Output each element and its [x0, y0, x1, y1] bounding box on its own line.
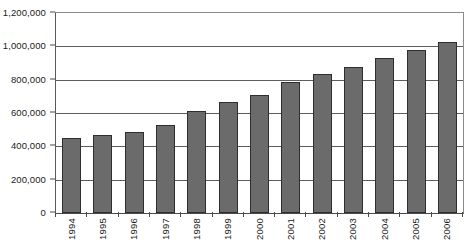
- x-tick-label: 2006: [441, 218, 452, 240]
- y-tick-label: 600,000: [11, 107, 46, 118]
- plot-area: [55, 12, 464, 214]
- bar: [156, 125, 175, 213]
- x-tick-label: 1996: [128, 218, 139, 240]
- x-tick-label: 2002: [316, 218, 327, 240]
- x-tick-label: 1994: [66, 218, 77, 240]
- bars-layer: [56, 13, 463, 213]
- x-tick-label: 1995: [97, 218, 108, 240]
- bar: [250, 95, 269, 213]
- bar: [187, 111, 206, 213]
- x-tick-label: 2003: [347, 218, 358, 240]
- bar: [219, 102, 238, 213]
- y-tick-label: 200,000: [11, 173, 46, 184]
- bar: [375, 58, 394, 213]
- y-tick-label: 400,000: [11, 140, 46, 151]
- y-tick-label: 800,000: [11, 73, 46, 84]
- y-tick-label: 0: [41, 207, 46, 218]
- bar: [344, 67, 363, 213]
- x-tick-label: 1997: [160, 218, 171, 240]
- bar: [125, 132, 144, 213]
- bar: [62, 138, 81, 213]
- x-tick-label: 2004: [379, 218, 390, 240]
- bar: [93, 135, 112, 213]
- bar: [313, 74, 332, 213]
- y-tick-label: 1,200,000: [3, 7, 46, 18]
- y-tick-label: 1,000,000: [3, 40, 46, 51]
- bar-chart: 0200,000400,000600,000800,0001,000,0001,…: [0, 0, 474, 251]
- x-axis-labels: 1994199519961997199819992000200120022003…: [55, 216, 462, 251]
- bar: [438, 42, 457, 213]
- x-tick-label: 2000: [254, 218, 265, 240]
- bar: [281, 82, 300, 213]
- x-tick-label: 2001: [285, 218, 296, 240]
- x-tick-mark: [462, 212, 463, 217]
- x-tick-label: 1998: [191, 218, 202, 240]
- x-tick-label: 1999: [222, 218, 233, 240]
- x-tick-label: 2005: [410, 218, 421, 240]
- y-axis: 0200,000400,000600,000800,0001,000,0001,…: [0, 0, 46, 251]
- bar: [407, 50, 426, 213]
